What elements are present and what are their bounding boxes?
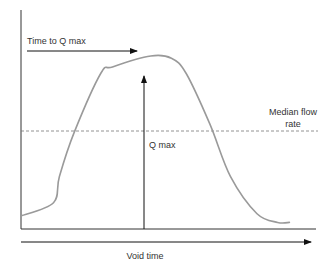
flow-diagram: Time to Q max Q max Median flow rate Voi… (0, 0, 330, 272)
qmax-label: Q max (149, 140, 176, 150)
median-flow-label-line1: Median flow (269, 107, 318, 117)
median-flow-label-line2: rate (285, 119, 301, 129)
void-time-label: Void time (126, 251, 163, 261)
time-to-qmax-label: Time to Q max (27, 36, 86, 46)
